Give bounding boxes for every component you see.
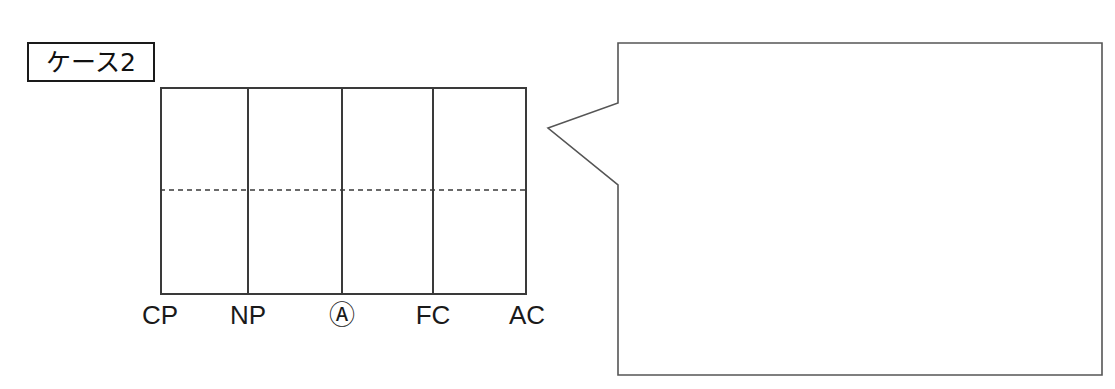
egogram-frame <box>161 88 526 294</box>
egogram-grid-svg <box>160 87 527 295</box>
axis-label-np: NP <box>230 299 266 331</box>
axis-label-ac: AC <box>509 299 545 331</box>
callout-shape-svg <box>544 39 1106 379</box>
axis-label-a-circled: Ⓐ <box>329 299 355 331</box>
axis-label-cp: CP <box>142 299 178 331</box>
case-label-text: ケース2 <box>46 50 136 75</box>
egogram-worksheet: ケース2 CP NP Ⓐ FC AC <box>0 0 1115 389</box>
case-label-box: ケース2 <box>27 42 155 82</box>
comment-callout <box>544 39 1106 379</box>
axis-label-fc: FC <box>416 299 451 331</box>
egogram-chart <box>160 87 527 295</box>
callout-balloon-path <box>548 43 1102 375</box>
